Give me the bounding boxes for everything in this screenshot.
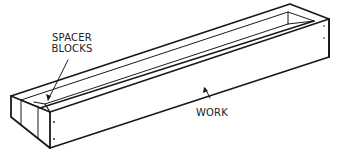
nail-dot xyxy=(53,121,55,123)
spacer-blocks-label: SPACER BLOCKS xyxy=(44,32,100,54)
bottom-front-edge xyxy=(50,57,329,148)
nail-dot xyxy=(323,37,325,39)
box-drawing xyxy=(0,0,338,159)
spacer-blocks-label-line2: BLOCKS xyxy=(44,43,100,54)
spacer-blocks-label-line1: SPACER xyxy=(44,32,100,43)
diagram-canvas: SPACER BLOCKS WORK xyxy=(0,0,338,159)
work-label: WORK xyxy=(190,107,234,118)
nail-dot xyxy=(53,138,55,140)
nail-dot xyxy=(323,25,325,27)
spacer-leader-line xyxy=(48,60,68,100)
inner-back-rim xyxy=(21,12,314,100)
